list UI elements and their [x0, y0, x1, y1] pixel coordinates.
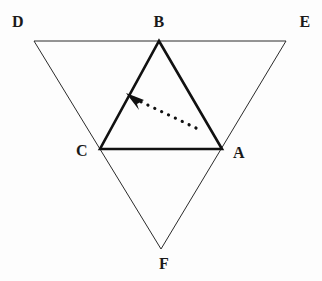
geometry-figure: DBECAF — [0, 0, 322, 281]
figure-canvas — [0, 0, 322, 281]
vertex-label-a: A — [233, 145, 245, 161]
vertex-label-d: D — [12, 14, 24, 30]
vertex-label-c: C — [76, 143, 88, 159]
vertex-label-e: E — [300, 14, 311, 30]
vertex-label-f: F — [159, 256, 169, 272]
vertex-label-b: B — [154, 14, 165, 30]
